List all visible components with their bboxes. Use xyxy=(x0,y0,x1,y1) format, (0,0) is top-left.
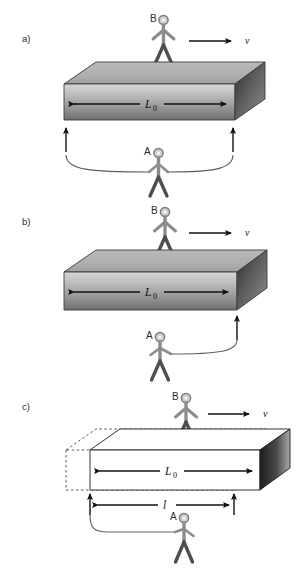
panel-b-slab xyxy=(64,250,267,310)
panel-a-observer-b-label: B xyxy=(150,13,157,24)
figure-canvas: a) v B xyxy=(0,0,306,574)
panel-c-contracted-label: l xyxy=(163,499,166,511)
panel-c: c) v B xyxy=(22,391,290,562)
panel-a-observer-a-label: A xyxy=(144,146,151,157)
panel-c-letter: c) xyxy=(22,401,30,412)
panel-a: a) v B xyxy=(22,13,265,196)
panel-a-slab-top xyxy=(64,62,265,84)
panel-a-slab xyxy=(64,62,265,120)
panel-a-velocity-label: v xyxy=(245,35,250,46)
panel-a-observer-a xyxy=(149,148,168,196)
panel-c-observer-b-label: B xyxy=(172,391,179,402)
panel-c-observer-a-label: A xyxy=(170,511,177,522)
panel-c-slab xyxy=(90,429,290,490)
panel-c-slab-top xyxy=(90,429,290,450)
length-contraction-figure: a) v B xyxy=(0,0,306,574)
panel-c-slab-front xyxy=(90,450,260,490)
panel-b-velocity-label: v xyxy=(245,227,250,238)
panel-a-length-subscript: 0 xyxy=(153,104,157,113)
panel-b-slab-top xyxy=(64,250,267,272)
panel-b-observer-b-label: B xyxy=(151,205,158,216)
panel-b-letter: b) xyxy=(22,216,30,227)
panel-b-length-label: L xyxy=(144,286,151,298)
panel-b-length-subscript: 0 xyxy=(153,292,157,301)
panel-b-measure-arms xyxy=(172,316,237,354)
panel-c-observer-a xyxy=(175,513,194,562)
panel-b-observer-a-label: A xyxy=(146,330,153,341)
panel-c-measure-arms xyxy=(90,494,234,532)
panel-b-observer-a xyxy=(151,332,172,380)
panel-c-length-label: L xyxy=(164,465,171,477)
panel-a-letter: a) xyxy=(22,33,30,44)
panel-c-length-subscript: 0 xyxy=(173,471,177,480)
panel-c-velocity-label: v xyxy=(263,408,268,419)
panel-a-length-label: L xyxy=(144,98,151,110)
panel-b: b) v B xyxy=(22,205,267,380)
